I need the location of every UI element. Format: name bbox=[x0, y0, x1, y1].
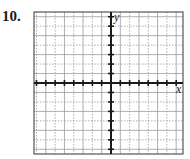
x-axis-label: x bbox=[175, 82, 182, 96]
coordinate-grid: y x bbox=[0, 0, 190, 159]
axes bbox=[34, 12, 183, 154]
y-axis-label: y bbox=[113, 10, 120, 24]
